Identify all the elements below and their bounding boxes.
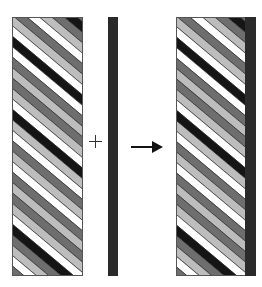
right-arrow-icon	[131, 141, 163, 153]
result-striped-rectangle	[176, 17, 246, 276]
source-striped-rectangle	[12, 17, 83, 276]
stripe-pattern	[13, 18, 82, 275]
attached-dark-bar	[245, 17, 256, 276]
vertical-dark-bar	[108, 17, 118, 276]
plus-sign-icon	[89, 135, 103, 149]
stripe-pattern	[177, 18, 246, 275]
